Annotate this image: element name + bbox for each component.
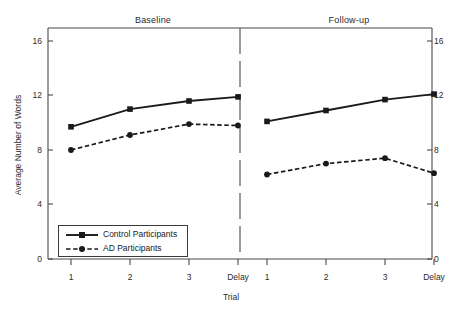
data-point-marker [382,155,388,161]
data-point-marker [431,170,437,176]
data-point-marker [431,91,437,97]
series-baseline-ad [68,121,241,153]
data-point-marker [382,97,388,103]
data-point-marker [235,94,241,100]
data-point-marker [127,106,133,112]
series-followup-ad [264,155,437,177]
data-point-marker [235,123,241,129]
data-point-marker [127,132,133,138]
data-point-marker [68,124,74,130]
plot-area [0,0,462,311]
data-point-marker [186,98,192,104]
series-baseline-control [68,94,241,130]
data-point-marker [186,121,192,127]
chart-figure: Baseline Follow-up Average Number of Wor… [0,0,462,311]
legend-label-control: Control Participants [103,229,177,239]
data-point-marker [323,161,329,167]
data-point-marker [323,108,329,114]
legend-entry-ad: AD Participants [59,242,189,256]
legend-swatch-dashed-circle [65,242,99,256]
legend-swatch-solid-square [65,228,99,242]
chart-legend: Control Participants AD Participants [58,225,188,257]
data-point-marker [264,119,270,125]
data-point-marker [264,172,270,178]
data-point-marker [68,147,74,153]
series-followup-control [264,91,437,124]
legend-label-ad: AD Participants [103,243,162,253]
legend-entry-control: Control Participants [59,228,189,242]
